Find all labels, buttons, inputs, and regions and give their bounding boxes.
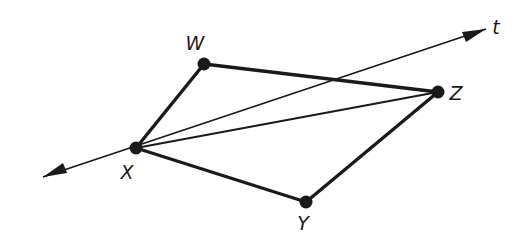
line-t (43, 29, 486, 177)
vertex-label-z: Z (448, 82, 463, 104)
line-label-t: t (492, 16, 501, 38)
vertex-dot-w (198, 58, 211, 71)
segment-xy (136, 148, 306, 202)
segment-xz (136, 92, 438, 148)
vertex-dot-z (432, 86, 445, 99)
vertex-label-x: X (119, 161, 134, 183)
diagram-canvas: W X Y Z t (0, 0, 519, 245)
vertex-dot-y (300, 196, 313, 209)
line-t-group (43, 29, 486, 177)
line-t-arrowhead-left (43, 163, 67, 177)
vertex-dot-x (130, 142, 143, 155)
line-t-arrowhead-right (462, 29, 486, 42)
vertex-label-y: Y (297, 212, 310, 234)
vertex-label-w: W (186, 32, 206, 54)
geometry-diagram: W X Y Z t (0, 0, 519, 245)
segment-yz (306, 92, 438, 202)
segment-wz (204, 64, 438, 92)
